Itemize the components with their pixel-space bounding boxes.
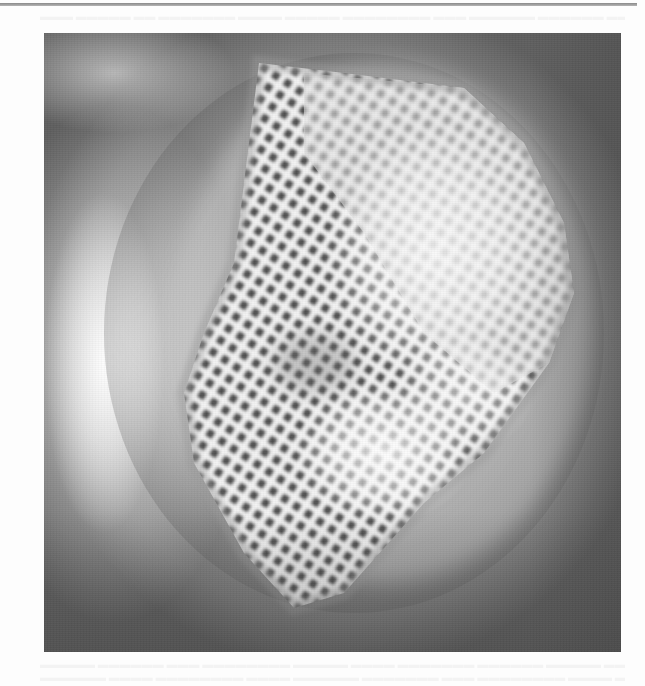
figure-caption <box>60 662 620 682</box>
figure-photo-mesh <box>44 33 621 652</box>
header-rule-divider <box>0 3 637 6</box>
figure-right-shading <box>531 33 621 652</box>
bleed-through-text-top: ▬▬▬ ▬▬▬▬▬ ▬▬ ▬▬▬▬▬▬▬ ▬▬▬▬ ▬▬▬▬▬ ▬▬▬▬▬▬▬▬… <box>40 10 625 23</box>
document-page: ▬▬▬ ▬▬▬▬▬ ▬▬ ▬▬▬▬▬▬▬ ▬▬▬▬ ▬▬▬▬▬ ▬▬▬▬▬▬▬▬… <box>0 0 645 686</box>
